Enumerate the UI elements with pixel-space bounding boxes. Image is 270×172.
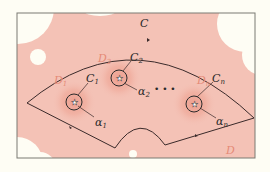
star-icon: ★	[116, 74, 123, 83]
label-contour-c: C	[140, 17, 149, 30]
label-domain-d: D	[225, 144, 235, 157]
star-icon: ★	[71, 98, 78, 107]
hole-bottom-small	[129, 150, 137, 158]
ellipsis: • • •	[154, 84, 176, 94]
contour-diagram: ★ ★ ★ C D1 C1 α1 D2 C2 α2 • • • Dn Cn αn…	[0, 0, 270, 172]
hole-small-left	[30, 49, 46, 65]
hole-top-middle	[84, 6, 116, 16]
star-icon: ★	[191, 100, 198, 109]
